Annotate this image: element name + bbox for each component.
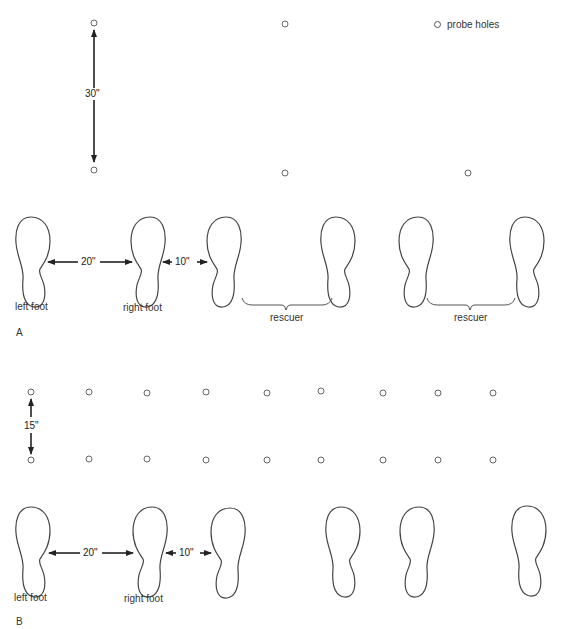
probe-hole-icon: [91, 20, 97, 26]
left-foot-icon: [16, 507, 50, 597]
probe-hole-icon: [380, 457, 386, 463]
probe-hole-icon: [203, 457, 209, 463]
probe-hole-icon: [490, 457, 496, 463]
rescuer-foot-icon: [207, 217, 241, 307]
probe-hole-icon: [264, 390, 270, 396]
probe-hole-icon: [435, 457, 441, 463]
probe-hole-icon: [28, 389, 34, 395]
probe-hole-icon: [318, 457, 324, 463]
panel-a-vertical-spacing-label: 30": [84, 88, 101, 99]
rescuer-foot-icon: [399, 217, 433, 307]
page-header-cropped: [320, 0, 550, 4]
panel-a-rescuer-label: rescuer: [270, 312, 303, 323]
rescuer-foot-icon: [211, 508, 245, 598]
panel-b-feet-gap-label: 20": [82, 547, 99, 558]
rescuer-foot-icon: [512, 506, 546, 596]
panel-a-probe-holes: [91, 20, 471, 176]
probe-hole-icon: [264, 457, 270, 463]
rescuer-foot-icon: [510, 217, 544, 307]
panel-a-label: A: [16, 327, 23, 338]
panel-a-right-foot-label: right foot: [123, 302, 162, 313]
panel-a-rescuer-label: rescuer: [454, 312, 487, 323]
panel-b-probe-holes: [28, 388, 496, 463]
probe-hole-icon: [465, 170, 471, 176]
probe-hole-icon: [435, 390, 441, 396]
probe-hole-icon: [86, 456, 92, 462]
probe-hole-icon: [490, 390, 496, 396]
panel-b-vertical-spacing-label: 15": [23, 420, 40, 431]
probe-hole-icon: [282, 170, 288, 176]
panel-b-rescuer-gap-label: 10": [178, 547, 195, 558]
rescuer-foot-icon: [321, 217, 355, 307]
panel-a-rescuer-gap-label: 10": [174, 256, 191, 267]
panel-b-right-foot-label: right foot: [124, 593, 163, 604]
probe-hole-icon: [282, 21, 288, 27]
probe-hole-icon: [91, 167, 97, 173]
right-foot-icon: [131, 217, 165, 307]
rescuer-foot-icon: [326, 507, 360, 597]
panel-a-left-foot-label: left foot: [15, 301, 48, 312]
probe-hole-icon: [28, 457, 34, 463]
probe-hole-icon: [86, 389, 92, 395]
probe-hole-icon: [380, 390, 386, 396]
probe-hole-icon: [144, 390, 150, 396]
panel-b-label: B: [16, 616, 23, 627]
legend-label: probe holes: [447, 19, 499, 30]
legend: probe holes: [434, 19, 499, 30]
probe-hole-icon: [318, 388, 324, 394]
probe-hole-icon: [203, 389, 209, 395]
panel-a-feet-gap-label: 20": [80, 256, 97, 267]
panel-a-rescuer-braces: [242, 298, 515, 310]
panel-b: [16, 388, 546, 598]
panel-b-left-foot-label: left foot: [14, 592, 47, 603]
probe-hole-icon: [144, 456, 150, 462]
right-foot-icon: [133, 507, 167, 597]
left-foot-icon: [16, 217, 50, 307]
rescuer-foot-icon: [400, 507, 434, 597]
probe-hole-icon: [434, 21, 441, 28]
